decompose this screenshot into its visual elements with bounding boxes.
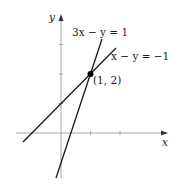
intersection-label: (1, 2) (93, 75, 121, 86)
x-axis-label: x (162, 137, 168, 148)
y-axis-label: y (49, 12, 55, 23)
graph-figure: y x 3x − y = 1 x − y = −1 (1, 2) (0, 0, 181, 189)
line-3x-minus-y-eq-1 (56, 39, 102, 178)
y-axis-arrow-icon (59, 14, 64, 21)
x-axis-arrow-icon (161, 131, 168, 136)
line1-label: 3x − y = 1 (72, 27, 128, 38)
line2-label: x − y = −1 (111, 51, 169, 62)
line-x-minus-y-eq-neg1 (23, 48, 116, 142)
